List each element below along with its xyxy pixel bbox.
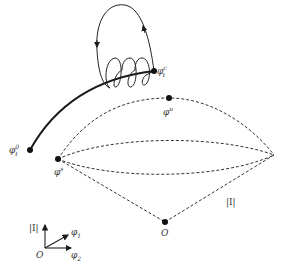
diagram-canvas: φct φ0t φu φs O |I| |I| φ1 φ2 O: [0, 0, 287, 269]
point-phi-u: [166, 95, 172, 101]
point-origin: [162, 219, 168, 225]
axis-label-origin: O: [36, 251, 43, 260]
label-phi-t-0: φ0t: [9, 144, 18, 157]
point-phi-t-0: [27, 147, 33, 153]
spiral-coils: [106, 58, 154, 88]
label-phi-u: φu: [163, 106, 173, 117]
label-origin: O: [161, 229, 168, 238]
label-edge-abs-I: |I|: [226, 198, 236, 207]
label-phi-t-c: φct: [157, 65, 165, 78]
diagram-svg: [0, 0, 287, 269]
axis-label-phi2: φ2: [71, 251, 81, 262]
axes-widget: [45, 225, 71, 248]
axis-label-phi1: φ1: [71, 228, 81, 239]
axis-label-vertical: |I|: [29, 224, 39, 233]
point-phi-s: [55, 156, 61, 162]
trajectory-curve: [30, 71, 154, 150]
label-phi-s: φs: [54, 166, 63, 177]
